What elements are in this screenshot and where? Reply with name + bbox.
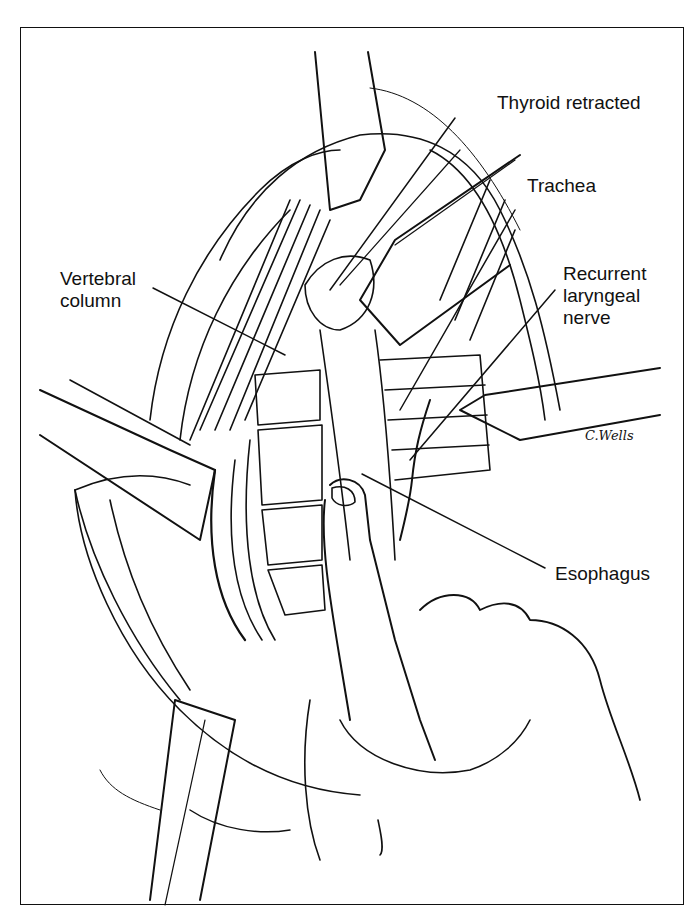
label-vertebral-column-1: Vertebral [60,268,136,290]
retractor-upper-right [360,155,520,345]
vertebra-3 [262,505,322,565]
vertebra-2 [258,425,322,505]
retractor-left [40,390,215,540]
label-recurrent-laryngeal-nerve-2: laryngeal [563,285,640,307]
incision-outline-top [220,134,560,410]
label-thyroid-retracted: Thyroid retracted [497,92,641,114]
label-esophagus: Esophagus [555,563,650,585]
recurrent-laryngeal-nerve [400,400,430,540]
retractor-top [315,52,385,210]
retractor-bottom [150,700,235,900]
leader-nerve [410,290,555,460]
leader-trachea [400,210,515,410]
label-recurrent-laryngeal-nerve-3: nerve [563,307,611,329]
leader-esophagus [362,474,545,568]
leader-vertebral [153,288,285,355]
vertebra-4 [268,565,325,615]
hand [420,595,640,800]
surgical-illustration [0,0,700,920]
label-vertebral-column-2: column [60,290,121,312]
label-recurrent-laryngeal-nerve-1: Recurrent [563,263,646,285]
fat-left [150,150,340,420]
incision-outline-left [75,490,360,795]
artist-signature: C.Wells [585,428,634,443]
label-trachea: Trachea [527,175,596,197]
vertebra-1 [255,370,320,425]
esophagus-right [375,330,395,560]
